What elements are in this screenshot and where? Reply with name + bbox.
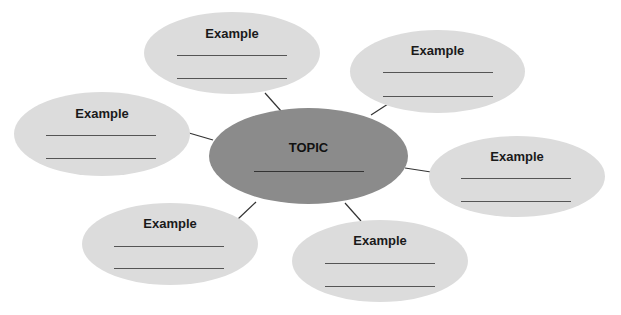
blank-line-2 <box>383 96 493 97</box>
example-bubble-bottom-left: Example <box>82 203 258 285</box>
example-bubble-bottom-right: Example <box>292 220 468 302</box>
blank-line-1 <box>383 72 493 73</box>
connector-top-right <box>371 104 388 115</box>
example-bubble-top-right: Example <box>350 30 525 113</box>
example-title: Example <box>429 149 605 164</box>
blank-line-2 <box>46 158 156 159</box>
example-title: Example <box>292 233 468 248</box>
connector-top <box>265 93 281 111</box>
blank-line-2 <box>461 201 571 202</box>
example-title: Example <box>350 43 525 58</box>
blank-line-1 <box>461 178 571 179</box>
blank-line-1 <box>46 135 156 136</box>
connector-left <box>189 133 213 140</box>
blank-line-2 <box>325 286 435 287</box>
topic-bubble: TOPIC <box>209 108 408 204</box>
connector-right <box>405 168 431 172</box>
example-bubble-left: Example <box>14 92 190 176</box>
blank-line-1 <box>325 263 435 264</box>
blank-line-2 <box>177 78 287 79</box>
blank-line-1 <box>114 246 224 247</box>
example-title: Example <box>14 106 190 121</box>
topic-title: TOPIC <box>209 140 408 155</box>
example-title: Example <box>82 216 258 231</box>
connector-bottom-right <box>345 203 361 221</box>
example-title: Example <box>144 26 320 41</box>
topic-blank-line <box>254 171 364 172</box>
blank-line-1 <box>177 55 287 56</box>
example-bubble-right: Example <box>429 136 605 217</box>
blank-line-2 <box>114 268 224 269</box>
example-bubble-top: Example <box>144 12 320 94</box>
